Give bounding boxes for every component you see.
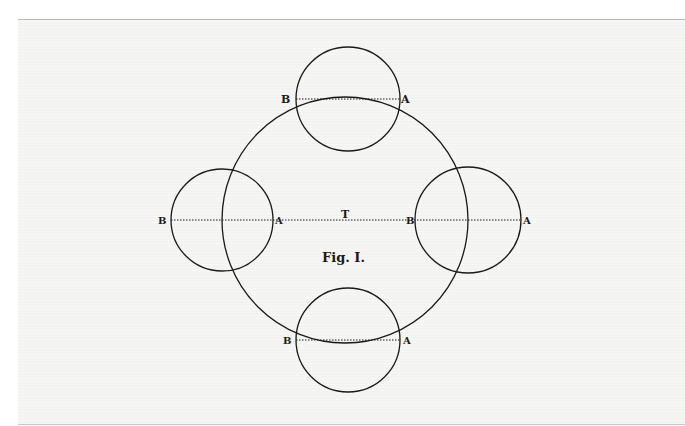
bottom-label-b: B (283, 335, 291, 346)
right-label-b: B (406, 215, 414, 226)
bottom-label-a: A (402, 335, 411, 346)
orbit-diagram: B A B A T B A B A Fig. I. (0, 0, 685, 426)
top-label-b: B (281, 93, 290, 106)
top-label-a: A (400, 93, 410, 106)
left-label-a: A (274, 215, 283, 226)
figure-caption: Fig. I. (322, 250, 365, 265)
left-label-b: B (158, 215, 166, 226)
right-label-a: A (522, 215, 531, 226)
center-label-t: T (341, 208, 350, 221)
